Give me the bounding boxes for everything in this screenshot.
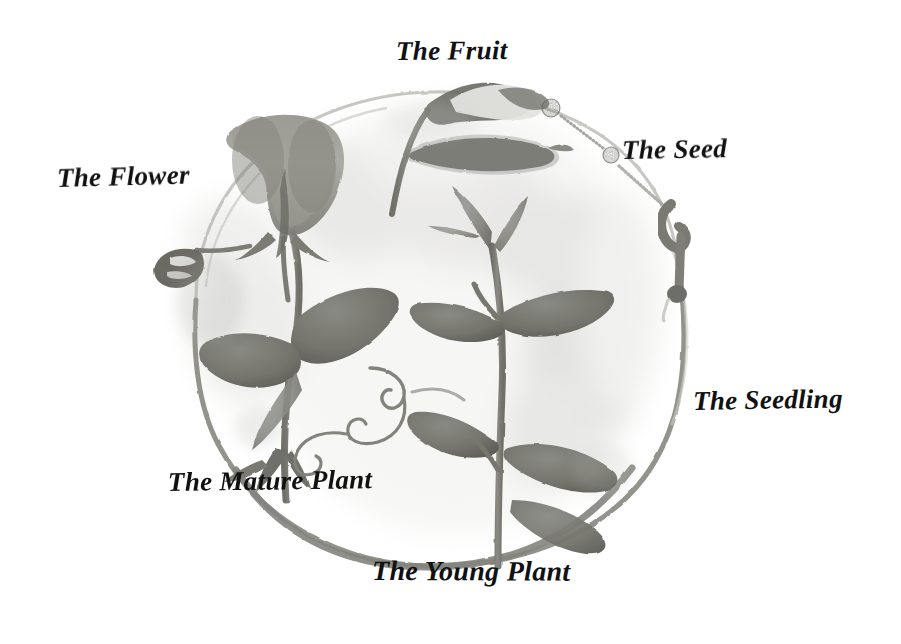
- label-the-seed: The Seed: [622, 133, 728, 166]
- label-the-fruit: The Fruit: [396, 35, 508, 67]
- label-the-mature-plant: The Mature Plant: [168, 464, 373, 498]
- botanical-illustration-svg: [0, 0, 901, 644]
- label-the-seedling: The Seedling: [693, 383, 843, 417]
- illustration-canvas: The Flower The Fruit The Seed The Seedli…: [0, 0, 901, 644]
- label-the-flower: The Flower: [57, 160, 191, 194]
- label-the-young-plant: The Young Plant: [372, 556, 571, 589]
